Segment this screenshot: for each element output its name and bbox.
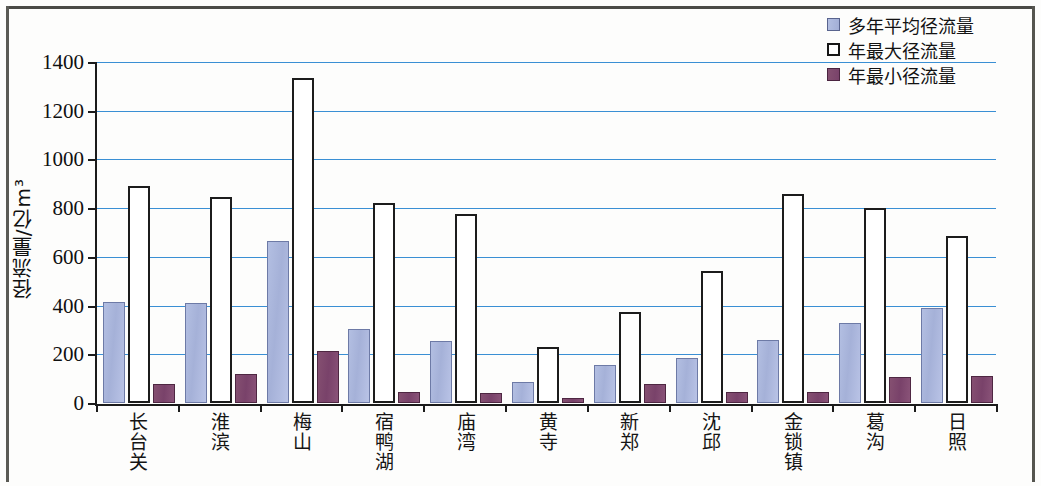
- x-axis-category-label: 梅山: [292, 412, 311, 452]
- bar-avg: [267, 241, 289, 403]
- bar-min: [153, 384, 175, 403]
- bar-group: [839, 62, 911, 403]
- x-axis-category-label: 长台关: [128, 412, 147, 472]
- x-axis-line: [95, 404, 996, 406]
- bar-group: [267, 62, 339, 403]
- bar-max: [373, 203, 395, 403]
- y-axis-tick-label: 800: [22, 196, 84, 221]
- bar-group: [676, 62, 748, 403]
- x-axis-category-label: 庙湾: [455, 412, 474, 452]
- bar-min: [726, 392, 748, 403]
- bar-max: [701, 271, 723, 403]
- x-axis-tick: [423, 404, 425, 412]
- y-axis-line: [95, 62, 97, 406]
- bar-min: [317, 351, 339, 403]
- plot-area: [96, 62, 996, 405]
- bar-group: [348, 62, 420, 403]
- legend-label-max: 年最大径流量: [848, 37, 956, 63]
- legend-swatch-max-icon: [827, 43, 840, 56]
- y-axis-tick-label: 600: [22, 244, 84, 269]
- x-axis-category-label: 沈邱: [701, 412, 720, 452]
- bar-max: [455, 214, 477, 403]
- y-axis-tick-label: 1000: [22, 147, 84, 172]
- legend-swatch-avg-icon: [827, 18, 840, 31]
- bar-max: [619, 312, 641, 403]
- bar-max: [128, 186, 150, 403]
- x-axis-category-label: 淮滨: [210, 412, 229, 452]
- bar-min: [807, 392, 829, 403]
- bar-min: [889, 377, 911, 403]
- y-axis-tick-label: 1200: [22, 98, 84, 123]
- bar-min: [235, 374, 257, 403]
- legend-item-avg: 多年平均径流量: [827, 12, 1027, 37]
- y-axis-tick-label: 1400: [22, 50, 84, 75]
- x-axis-tick: [587, 404, 589, 412]
- bar-group: [103, 62, 175, 403]
- x-axis-category-label: 宿鸭湖: [373, 412, 392, 472]
- x-axis-category-label: 日照: [946, 412, 965, 452]
- y-axis-tick-label: 0: [22, 391, 84, 416]
- bar-min: [398, 392, 420, 403]
- bar-avg: [921, 308, 943, 403]
- bar-avg: [185, 303, 207, 403]
- x-axis-tick: [832, 404, 834, 412]
- bar-max: [864, 208, 886, 403]
- bar-group: [185, 62, 257, 403]
- y-axis-tick-label: 200: [22, 342, 84, 367]
- y-axis-tick-label: 400: [22, 293, 84, 318]
- bar-avg: [430, 341, 452, 403]
- x-axis-category-label: 黄寺: [537, 412, 556, 452]
- bar-max: [946, 236, 968, 403]
- bar-group: [921, 62, 993, 403]
- bar-avg: [594, 365, 616, 403]
- bar-min: [562, 398, 584, 403]
- x-axis-category-label: 金锁镇: [782, 412, 801, 472]
- legend-item-max: 年最大径流量: [827, 37, 1027, 62]
- x-axis-tick: [669, 404, 671, 412]
- x-axis-tick: [178, 404, 180, 412]
- bar-avg: [676, 358, 698, 403]
- x-axis-tick: [751, 404, 753, 412]
- frame-top-border: [6, 6, 1035, 9]
- bar-group: [757, 62, 829, 403]
- chart-figure: 径流量/亿m³ 多年平均径流量 年最大径流量 年最小径流量 0200400600…: [0, 0, 1041, 486]
- x-axis-category-label: 葛沟: [864, 412, 883, 452]
- bar-max: [782, 194, 804, 403]
- x-axis-tick: [96, 404, 98, 412]
- bar-max: [537, 347, 559, 403]
- bar-avg: [103, 302, 125, 403]
- bar-max: [210, 197, 232, 403]
- bar-group: [594, 62, 666, 403]
- x-axis-category-label: 新郑: [619, 412, 638, 452]
- x-axis-tick: [996, 404, 998, 412]
- bar-avg: [839, 323, 861, 403]
- bar-min: [480, 393, 502, 403]
- bar-group: [430, 62, 502, 403]
- x-axis-tick: [341, 404, 343, 412]
- bar-min: [971, 376, 993, 403]
- bar-max: [292, 78, 314, 403]
- bar-min: [644, 384, 666, 403]
- bar-avg: [757, 340, 779, 403]
- x-axis-tick: [505, 404, 507, 412]
- x-axis-tick: [260, 404, 262, 412]
- bar-group: [512, 62, 584, 403]
- bar-avg: [348, 329, 370, 403]
- x-axis-tick: [914, 404, 916, 412]
- legend-label-avg: 多年平均径流量: [848, 12, 974, 38]
- frame-right-border: [1032, 6, 1035, 482]
- bar-avg: [512, 382, 534, 403]
